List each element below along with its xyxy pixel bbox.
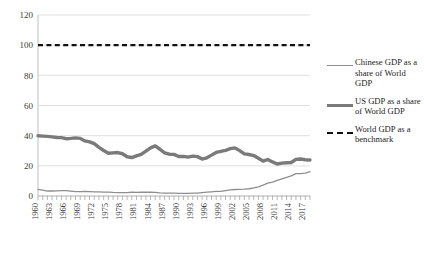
y-axis-tick-label: 20 (24, 161, 34, 171)
x-axis-tick-label: 2005 (241, 203, 251, 220)
x-axis-tick-label: 1987 (157, 203, 167, 220)
x-axis-tick-label: 1996 (199, 203, 209, 220)
legend-item-chinese-gdp: Chinese GDP as a share of World GDP (327, 57, 424, 89)
x-axis-tick-label: 1972 (86, 203, 96, 220)
x-axis-tick-label: 1990 (171, 203, 181, 220)
x-axis-tick-label: 1960 (30, 203, 40, 220)
legend-label-world-benchmark: World GDP as a benchmark (353, 124, 424, 145)
x-axis-tick-label: 2017 (297, 203, 307, 220)
x-axis-tick-label: 2002 (227, 203, 237, 220)
y-axis-tick-label: 40 (24, 131, 34, 141)
x-axis-tick-label: 1978 (114, 203, 124, 220)
thick-line-sample-icon (327, 98, 353, 110)
x-axis-tick-label: 1999 (213, 203, 223, 220)
x-axis-tick-label: 1966 (58, 203, 68, 220)
legend-item-world-benchmark: World GDP as a benchmark (327, 124, 424, 145)
dashed-line-sample-icon (327, 126, 353, 138)
x-axis-tick-label: 1993 (185, 203, 195, 220)
legend-label-chinese-gdp: Chinese GDP as a share of World GDP (353, 57, 424, 89)
x-axis-tick-label: 1963 (44, 203, 54, 220)
gdp-share-line-chart: 0204060801001201960196319661969197219751… (0, 0, 424, 253)
chart-canvas: 0204060801001201960196319661969197219751… (0, 0, 320, 253)
x-axis-tick-label: 2008 (255, 203, 265, 220)
plot-area-container: 0204060801001201960196319661969197219751… (0, 0, 320, 253)
x-axis-tick-label: 1984 (143, 202, 153, 220)
series-line-thick-solid (38, 136, 310, 164)
y-axis-tick-label: 60 (24, 101, 34, 111)
legend-item-us-gdp: US GDP as a share of World GDP (327, 96, 424, 117)
x-axis-tick-label: 2014 (283, 202, 293, 220)
x-axis-tick-label: 1975 (100, 203, 110, 220)
y-axis-tick-label: 100 (20, 40, 34, 50)
x-axis-tick-label: 1981 (128, 203, 138, 220)
chart-legend: Chinese GDP as a share of World GDP US G… (327, 57, 424, 152)
legend-label-us-gdp: US GDP as a share of World GDP (353, 96, 424, 117)
y-axis-tick-label: 0 (29, 191, 34, 201)
y-axis-tick-label: 80 (24, 71, 34, 81)
series-line-thin-solid (38, 172, 310, 194)
x-axis-tick-label: 2011 (269, 203, 279, 220)
thin-line-sample-icon (327, 59, 353, 71)
y-axis-tick-label: 120 (20, 10, 34, 20)
x-axis-tick-label: 1969 (72, 203, 82, 220)
